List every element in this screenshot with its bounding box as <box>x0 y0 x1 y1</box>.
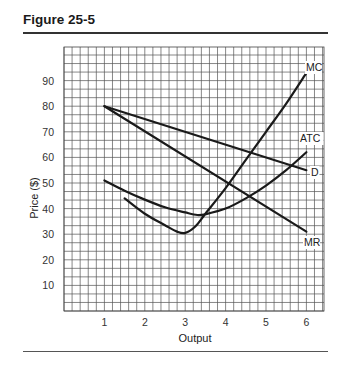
bottom-rule <box>23 351 328 352</box>
y-tick-label: 40 <box>42 203 54 215</box>
y-tick-label: 60 <box>42 151 54 163</box>
y-tick-label: 10 <box>42 279 54 291</box>
curve-mc <box>125 73 307 233</box>
x-tick-label: 6 <box>303 316 309 328</box>
grid <box>64 47 324 311</box>
curves <box>104 73 306 233</box>
curve-label-d: D <box>311 166 319 178</box>
y-tick-label: 50 <box>42 177 54 189</box>
curve-label-mc: MC <box>306 61 323 73</box>
curve-label-mr: MR <box>304 236 321 248</box>
x-axis-label: Output <box>178 332 211 344</box>
y-tick-label: 20 <box>42 254 54 266</box>
y-axis-ticks: 102030405060708090 <box>42 75 54 292</box>
x-tick-label: 2 <box>142 316 148 328</box>
y-tick-label: 70 <box>42 126 54 138</box>
x-tick-label: 1 <box>101 316 107 328</box>
curve-label-atc: ATC <box>300 132 321 144</box>
curve-d <box>104 106 306 170</box>
chart: 102030405060708090 123456 MCATCDMR Price… <box>0 0 347 370</box>
y-tick-label: 90 <box>42 75 54 87</box>
y-tick-label: 80 <box>42 100 54 112</box>
x-tick-label: 3 <box>182 316 188 328</box>
y-tick-label: 30 <box>42 228 54 240</box>
x-axis-ticks: 123456 <box>101 316 309 328</box>
x-tick-label: 5 <box>263 316 269 328</box>
x-tick-label: 4 <box>223 316 229 328</box>
y-axis-label: Price ($) <box>28 177 40 219</box>
